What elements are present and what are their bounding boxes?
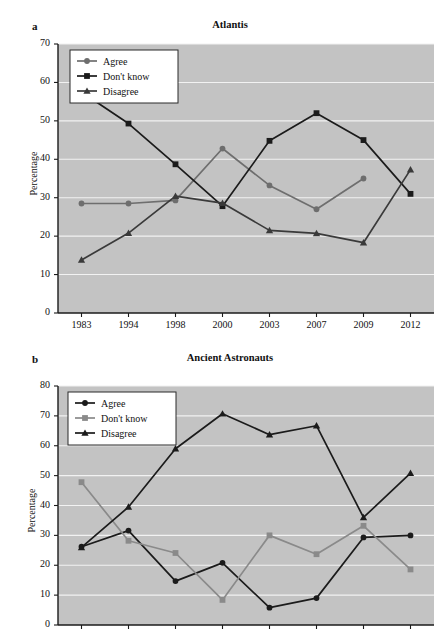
x-tick-label: 2000 xyxy=(203,319,243,330)
x-tick-label: 2009 xyxy=(344,319,384,330)
legend-marker-square xyxy=(84,73,90,79)
data-point-don-t-know xyxy=(173,550,179,556)
data-point-agree xyxy=(267,183,273,189)
y-tick-label: 20 xyxy=(24,229,50,240)
chart-panel-a: a Atlantis Percentage AgreeDon't knowDis… xyxy=(0,0,445,340)
x-tick-label: 1998 xyxy=(156,319,196,330)
x-tick-label: 2003 xyxy=(250,319,290,330)
legend-label-1[interactable]: Don't know xyxy=(103,71,150,82)
legend-label-2[interactable]: Disagree xyxy=(101,428,137,439)
y-tick-label: 40 xyxy=(24,152,50,163)
y-tick-label: 70 xyxy=(24,37,50,48)
data-point-agree xyxy=(408,532,414,538)
data-point-agree xyxy=(220,560,226,566)
data-point-agree xyxy=(361,535,367,541)
data-point-agree xyxy=(314,595,320,601)
data-point-don-t-know xyxy=(220,597,226,603)
data-point-don-t-know xyxy=(361,137,367,143)
data-point-don-t-know xyxy=(267,138,273,144)
data-point-agree xyxy=(126,201,132,207)
data-point-don-t-know xyxy=(173,161,179,167)
data-point-agree xyxy=(267,605,273,611)
y-tick-label: 30 xyxy=(24,191,50,202)
data-point-agree xyxy=(220,146,226,152)
figure-page: a Atlantis Percentage AgreeDon't knowDis… xyxy=(0,0,445,639)
legend-marker-square xyxy=(82,415,88,421)
x-tick-label: 1983 xyxy=(62,319,102,330)
x-tick-label: 1994 xyxy=(109,319,149,330)
data-point-don-t-know xyxy=(361,523,367,529)
legend-label-1[interactable]: Don't know xyxy=(101,413,148,424)
y-tick-label: 20 xyxy=(24,558,50,569)
legend-marker-circle xyxy=(82,400,88,406)
legend-label-0[interactable]: Agree xyxy=(101,398,126,409)
y-tick-label: 0 xyxy=(24,618,50,629)
data-point-don-t-know xyxy=(314,110,320,116)
x-tick-label: 2012 xyxy=(391,319,431,330)
y-tick-label: 60 xyxy=(24,439,50,450)
legend-marker-circle xyxy=(84,58,90,64)
data-point-don-t-know xyxy=(408,567,414,573)
data-point-don-t-know xyxy=(408,191,414,197)
data-point-agree xyxy=(361,176,367,182)
y-tick-label: 0 xyxy=(24,306,50,317)
data-point-don-t-know xyxy=(126,121,132,127)
data-point-agree xyxy=(126,528,132,534)
x-tick-label: 2007 xyxy=(297,319,337,330)
chart-panel-b: b Ancient Astronauts Percentage AgreeDon… xyxy=(0,340,445,639)
data-point-don-t-know xyxy=(314,551,320,557)
data-point-don-t-know xyxy=(267,532,273,538)
chart-svg-b: AgreeDon't knowDisagree xyxy=(0,340,445,639)
data-point-agree xyxy=(314,206,320,212)
y-tick-label: 50 xyxy=(24,114,50,125)
data-point-agree xyxy=(79,201,85,207)
y-tick-label: 10 xyxy=(24,588,50,599)
data-point-agree xyxy=(173,578,179,584)
data-point-don-t-know xyxy=(79,479,85,485)
y-tick-label: 80 xyxy=(24,379,50,390)
chart-svg-a: AgreeDon't knowDisagree xyxy=(0,0,445,340)
y-tick-label: 10 xyxy=(24,268,50,279)
y-tick-label: 40 xyxy=(24,499,50,510)
y-tick-label: 30 xyxy=(24,528,50,539)
legend-label-2[interactable]: Disagree xyxy=(103,86,139,97)
y-tick-label: 70 xyxy=(24,409,50,420)
data-point-don-t-know xyxy=(126,538,132,544)
y-tick-label: 60 xyxy=(24,75,50,86)
y-tick-label: 50 xyxy=(24,469,50,480)
legend-label-0[interactable]: Agree xyxy=(103,56,128,67)
